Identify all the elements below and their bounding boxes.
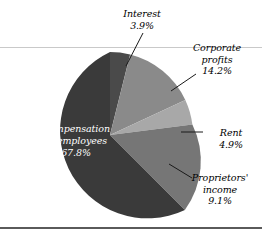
slice-label-interest: Interest 3.9% <box>104 8 180 31</box>
pie-chart-figure: Interest 3.9% Corporate profits 14.2% Re… <box>0 0 262 236</box>
slice-label-corporate-profits-name2: profits <box>176 54 258 66</box>
slice-label-interest-name: Interest <box>104 8 180 20</box>
slice-label-corporate-profits-name1: Corporate <box>176 42 258 54</box>
slice-label-rent-name: Rent <box>206 127 256 139</box>
slice-label-corporate-profits-percent: 14.2% <box>176 65 258 77</box>
slice-label-proprietors-income-percent: 9.1% <box>182 195 258 207</box>
slice-label-compensation-percent: 67.8% <box>22 147 130 159</box>
slice-label-proprietors-income-name2: income <box>182 184 258 196</box>
slice-label-compensation-name2: of employees <box>22 135 130 147</box>
slice-label-proprietors-income-name1: Proprietors' <box>182 172 258 184</box>
slice-label-compensation-of-employees: Compensation of employees 67.8% <box>22 123 130 159</box>
slice-label-compensation-name1: Compensation <box>22 123 130 135</box>
slice-label-proprietors-income: Proprietors' income 9.1% <box>182 172 258 207</box>
slice-label-corporate-profits: Corporate profits 14.2% <box>176 42 258 77</box>
leader-line-corporate-profits <box>171 74 196 91</box>
bottom-divider-rule <box>0 227 262 229</box>
slice-label-rent: Rent 4.9% <box>206 127 256 150</box>
slice-label-interest-percent: 3.9% <box>104 20 180 32</box>
slice-label-rent-percent: 4.9% <box>206 139 256 151</box>
